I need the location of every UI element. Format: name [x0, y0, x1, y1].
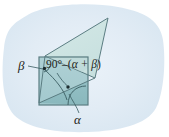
beta-label: β: [17, 58, 25, 73]
geometry-figure-canvas: β 90°–(α + β) α: [0, 0, 169, 137]
geometry-figure: β 90°–(α + β) α: [0, 0, 169, 137]
complement-body: α + β: [72, 58, 98, 71]
complement-suffix: ): [97, 58, 101, 71]
complement-prefix: 90°–(: [46, 58, 72, 71]
complement-angle-label: 90°–(α + β): [46, 58, 101, 71]
alpha-label: α: [74, 112, 82, 127]
